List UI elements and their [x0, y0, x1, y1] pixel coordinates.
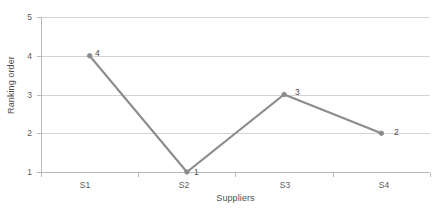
x-tick-boundary-3	[333, 173, 334, 177]
x-tick-label-s2: S2	[154, 180, 214, 191]
x-tick-label-s1: S1	[55, 180, 115, 191]
plot-area	[41, 17, 430, 172]
data-label-s4: 2	[394, 127, 399, 137]
y-tick-5	[37, 17, 41, 18]
y-tick-label-3: 3	[8, 90, 32, 100]
data-label-s3: 3	[295, 87, 300, 97]
gridline-3	[41, 95, 430, 96]
gridline-5	[41, 17, 430, 18]
y-axis-line	[41, 17, 42, 173]
x-tick-label-s4: S4	[354, 180, 414, 191]
y-tick-4	[37, 56, 41, 57]
x-tick-boundary-4	[430, 173, 431, 177]
x-tick-label-s3: S3	[255, 180, 315, 191]
x-tick-boundary-1	[138, 173, 139, 177]
y-tick-2	[37, 133, 41, 134]
gridline-2	[41, 133, 430, 134]
x-tick-boundary-0	[41, 173, 42, 177]
x-axis-title: Suppliers	[41, 193, 430, 203]
y-tick-3	[37, 95, 41, 96]
data-label-s1: 4	[95, 48, 100, 58]
y-tick-label-5: 5	[8, 12, 32, 22]
y-tick-label-1: 1	[8, 167, 32, 177]
y-tick-label-4: 4	[8, 51, 32, 61]
y-tick-label-2: 2	[8, 128, 32, 138]
data-label-s2: 1	[194, 167, 199, 177]
line-chart: Ranking order 5 4 3 2 1 S1 S2 S3 S4 4 1 …	[0, 0, 440, 218]
x-tick-boundary-2	[235, 173, 236, 177]
